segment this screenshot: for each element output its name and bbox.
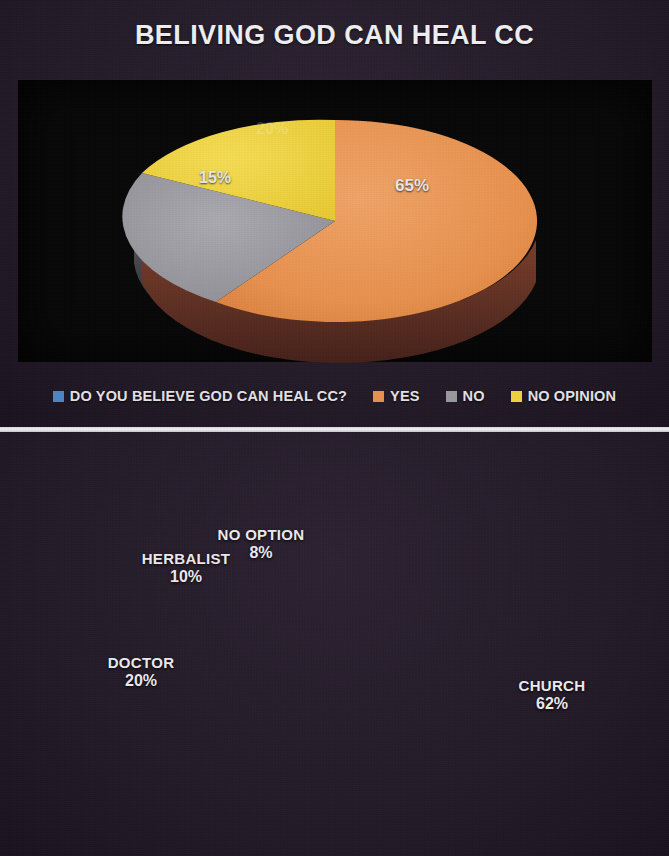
callout-no-option-name: NO OPTION — [196, 526, 326, 544]
callout-doctor-value: 20% — [86, 672, 196, 691]
legend-swatch-icon-no — [446, 391, 457, 402]
chart-panel-top: BELIVING GOD CAN HEAL CC — [0, 0, 669, 428]
legend-label-no: NO — [463, 388, 485, 404]
legend-swatch-icon-yes — [373, 391, 384, 402]
callout-doctor-name: DOCTOR — [86, 654, 196, 672]
chart-panel-bottom: ONLY ONETREATMENT OPTION AVAILABLE — [0, 432, 669, 856]
legend-label-yes: YES — [390, 388, 419, 404]
legend-swatch-icon-question — [53, 391, 64, 402]
callout-church: CHURCH 62% — [497, 677, 607, 714]
pie-label-no-opinion: 20% — [256, 120, 288, 138]
panel-divider — [0, 427, 669, 432]
callout-herbalist: HERBALIST 10% — [126, 550, 246, 587]
pie-label-no: 15% — [199, 169, 231, 187]
callout-doctor: DOCTOR 20% — [86, 654, 196, 691]
chart-title-believing-god-can-heal: BELIVING GOD CAN HEAL CC — [0, 19, 669, 52]
pie-label-yes: 65% — [395, 176, 429, 196]
legend-item-yes[interactable]: YES — [373, 388, 419, 404]
legend-top: DO YOU BELIEVE GOD CAN HEAL CC? YES NO N… — [0, 388, 669, 404]
legend-item-question[interactable]: DO YOU BELIEVE GOD CAN HEAL CC? — [53, 388, 347, 404]
callout-herbalist-name: HERBALIST — [126, 550, 246, 568]
callout-church-name: CHURCH — [497, 677, 607, 695]
slide-image: BELIVING GOD CAN HEAL CC — [0, 0, 669, 856]
legend-label-question: DO YOU BELIEVE GOD CAN HEAL CC? — [70, 388, 347, 404]
legend-item-no[interactable]: NO — [446, 388, 485, 404]
legend-label-no-opinion: NO OPINION — [528, 388, 617, 404]
callout-herbalist-value: 10% — [126, 568, 246, 587]
pie-chart-believing-god-can-heal — [104, 90, 566, 352]
callout-church-value: 62% — [497, 695, 607, 714]
legend-item-no-opinion[interactable]: NO OPINION — [511, 388, 617, 404]
plot-area-top: 65% 15% 20% — [18, 80, 652, 362]
legend-swatch-icon-no-opinion — [511, 391, 522, 402]
